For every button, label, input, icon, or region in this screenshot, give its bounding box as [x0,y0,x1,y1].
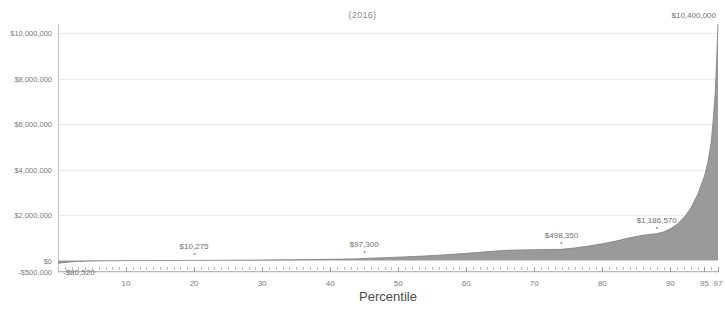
x-tick-mark [385,267,386,270]
x-tick-label: 10 [122,279,131,288]
x-tick-mark [283,267,284,270]
x-tick-mark [85,267,86,270]
x-tick-mark [527,267,528,270]
x-tick-mark [317,267,318,270]
x-tick-mark-major [670,267,671,272]
x-tick-mark [289,267,290,270]
x-tick-mark [208,267,209,270]
x-tick-mark [323,267,324,270]
x-axis-tick-marks [58,267,718,272]
y-tick-label: $10,000,000 [10,29,52,38]
x-tick-mark [521,267,522,270]
x-tick-mark [391,267,392,270]
y-tick-label: $0 [44,256,52,265]
x-tick-mark [228,267,229,270]
plot-area: $10,000,000$8,000,000$6,000,000$4,000,00… [58,24,718,302]
x-tick-mark [249,267,250,270]
x-tick-mark [296,267,297,270]
x-tick-mark-major [398,267,399,272]
x-tick-mark [480,267,481,270]
x-tick-mark [106,267,107,270]
x-tick-mark [214,267,215,270]
x-tick-mark [514,267,515,270]
x-tick-mark [65,267,66,270]
x-tick-mark [582,267,583,270]
x-tick-mark [187,267,188,270]
x-tick-mark [167,267,168,270]
x-tick-mark [562,267,563,270]
x-tick-mark [133,267,134,270]
x-tick-mark [92,267,93,270]
x-tick-label: 60 [462,279,471,288]
x-tick-mark-major [718,267,719,272]
x-tick-mark [432,267,433,270]
x-tick-mark [425,267,426,270]
x-tick-mark [364,267,365,270]
x-tick-mark [112,267,113,270]
x-tick-mark [78,267,79,270]
x-tick-mark [419,267,420,270]
net-worth-percentile-chart: (2016) $10,000,000$8,000,000$6,000,000$4… [0,0,725,334]
x-tick-mark [650,267,651,270]
x-tick-mark [371,267,372,270]
x-tick-mark [555,267,556,270]
x-tick-mark [596,267,597,270]
data-annotation: $97,300 [350,240,379,253]
y-tick-label: $4,000,000 [14,165,52,174]
data-annotation: $1,186,570 [637,216,677,229]
x-tick-label: 70 [530,279,539,288]
x-axis-title: Percentile [58,289,718,304]
x-tick-mark [276,267,277,270]
x-tick-mark [541,267,542,270]
x-tick-mark [684,267,685,270]
data-annotation: $498,350 [545,231,578,244]
x-tick-mark [453,267,454,270]
x-tick-mark [548,267,549,270]
x-tick-mark [140,267,141,270]
x-tick-mark [487,267,488,270]
x-tick-mark [351,267,352,270]
x-tick-mark [310,267,311,270]
x-tick-label: 40 [326,279,335,288]
x-tick-mark [439,267,440,270]
x-tick-mark [507,267,508,270]
x-tick-mark [146,267,147,270]
x-tick-mark-major [602,267,603,272]
x-tick-mark [344,267,345,270]
x-tick-mark [72,267,73,270]
series-area [58,24,718,302]
x-tick-mark [698,267,699,270]
x-tick-mark [568,267,569,270]
x-tick-mark-major [194,267,195,272]
x-tick-mark [589,267,590,270]
y-tick-label: $6,000,000 [14,120,52,129]
x-tick-label: 90 [666,279,675,288]
x-tick-mark [58,267,59,270]
x-tick-mark [99,267,100,270]
x-tick-mark-major [534,267,535,272]
x-tick-mark [609,267,610,270]
x-tick-label: 80 [598,279,607,288]
x-tick-mark [711,267,712,270]
x-tick-mark [357,267,358,270]
x-tick-mark [575,267,576,270]
x-tick-mark [412,267,413,270]
x-tick-label: 50 [394,279,403,288]
x-tick-mark [493,267,494,270]
x-tick-mark [664,267,665,270]
x-tick-mark [446,267,447,270]
x-tick-mark [378,267,379,270]
x-tick-mark [269,267,270,270]
x-tick-mark [174,267,175,270]
x-tick-mark [630,267,631,270]
x-tick-mark-major [262,267,263,272]
y-tick-label: $2,000,000 [14,211,52,220]
x-tick-mark [459,267,460,270]
series-line-path [58,24,718,263]
x-tick-label: 30 [258,279,267,288]
y-tick-label: -$500,000 [18,268,52,277]
x-tick-mark [255,267,256,270]
x-tick-mark [616,267,617,270]
x-tick-mark [303,267,304,270]
x-tick-mark [473,267,474,270]
